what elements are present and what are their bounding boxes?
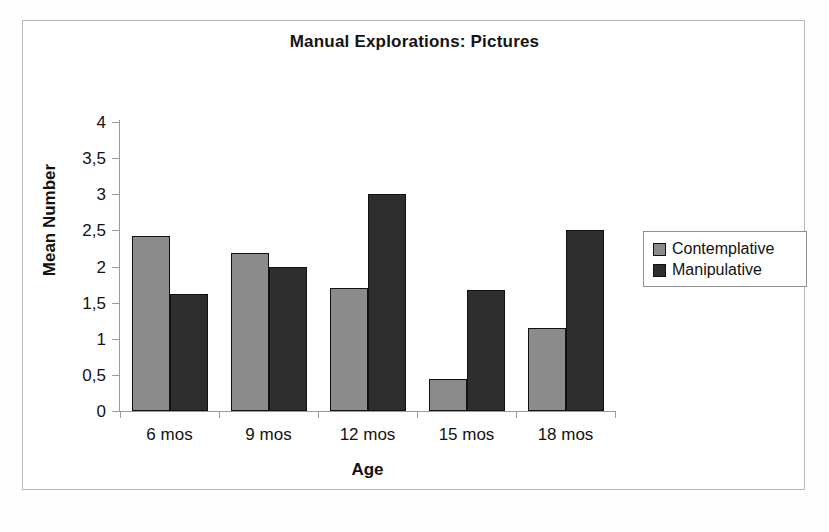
y-tick-label: 3 (46, 185, 106, 205)
y-tick-label: 0,5 (46, 366, 106, 386)
bar-manipulative-12-mos (368, 194, 406, 411)
x-tick-mark (615, 411, 616, 418)
x-tick-label: 18 mos (516, 425, 615, 445)
y-tick-label: 2,5 (46, 221, 106, 241)
y-tick-mark (112, 194, 120, 195)
bar-contemplative-12-mos (330, 288, 368, 411)
x-tick-mark (417, 411, 418, 418)
bar-contemplative-15-mos (429, 379, 467, 412)
y-tick-label: 3,5 (46, 149, 106, 169)
legend-item-manipulative[interactable]: Manipulative (653, 262, 797, 278)
y-tick-mark (112, 158, 120, 159)
x-tick-mark (120, 411, 121, 418)
bar-contemplative-18-mos (528, 328, 566, 411)
x-tick-mark (219, 411, 220, 418)
y-tick-label: 1,5 (46, 294, 106, 314)
y-tick-mark (112, 411, 120, 412)
legend-item-label: Contemplative (672, 241, 774, 257)
legend-swatch-icon (653, 264, 666, 277)
bar-contemplative-6-mos (132, 236, 170, 411)
bar-manipulative-9-mos (269, 267, 307, 412)
y-tick-mark (112, 122, 120, 123)
plot-area (120, 122, 615, 411)
y-tick-label: 2 (46, 258, 106, 278)
legend-swatch-icon (653, 243, 666, 256)
y-tick-mark (112, 267, 120, 268)
x-tick-label: 12 mos (318, 425, 417, 445)
x-axis-line (119, 411, 616, 412)
bar-contemplative-9-mos (231, 253, 269, 411)
x-tick-label: 6 mos (120, 425, 219, 445)
x-tick-mark (516, 411, 517, 418)
y-tick-mark (112, 230, 120, 231)
bar-manipulative-18-mos (566, 230, 604, 411)
legend-item-label: Manipulative (672, 262, 762, 278)
y-tick-label: 0 (46, 402, 106, 422)
x-tick-label: 9 mos (219, 425, 318, 445)
bar-manipulative-15-mos (467, 290, 505, 411)
chart-title: Manual Explorations: Pictures (0, 32, 829, 52)
y-tick-label: 4 (46, 113, 106, 133)
y-tick-label: 1 (46, 330, 106, 350)
y-tick-mark (112, 375, 120, 376)
x-tick-label: 15 mos (417, 425, 516, 445)
chart-legend: Contemplative Manipulative (643, 231, 807, 287)
y-tick-mark (112, 303, 120, 304)
legend-item-contemplative[interactable]: Contemplative (653, 241, 797, 257)
bar-manipulative-6-mos (170, 294, 208, 411)
figure-canvas: Manual Explorations: Pictures Mean Numbe… (0, 0, 829, 532)
x-axis-title: Age (120, 460, 615, 480)
y-tick-mark (112, 339, 120, 340)
x-tick-mark (318, 411, 319, 418)
